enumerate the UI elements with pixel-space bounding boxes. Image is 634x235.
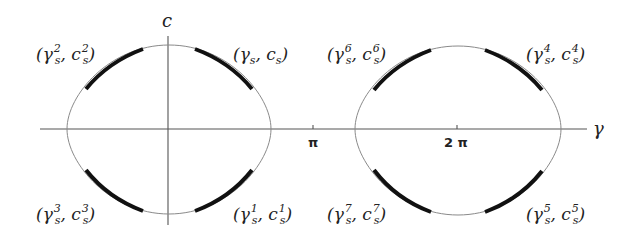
label-gamma5-c5: (γ5s, c5s) — [526, 202, 585, 227]
tick-label-2pi: 2 π — [444, 135, 468, 150]
label-gamma4-c4: (γ4s, c4s) — [526, 42, 585, 67]
phase-diagram: c γ π 2 π (γ2s, c2s) (γs, cs) (γ3s, c3s)… — [0, 0, 634, 235]
right-loop-curve — [355, 46, 561, 215]
tick-label-pi: π — [308, 135, 318, 150]
label-gamma1-c1: (γ1s, c1s) — [233, 202, 292, 227]
c-axis-label: c — [162, 10, 172, 31]
gamma-axis-label: γ — [593, 118, 604, 139]
label-gamma-c: (γs, cs) — [233, 44, 288, 67]
label-gamma3-c3: (γ3s, c3s) — [36, 202, 95, 227]
label-gamma2-c2: (γ2s, c2s) — [36, 42, 95, 67]
label-gamma6-c6: (γ6s, c6s) — [327, 42, 386, 67]
label-gamma7-c7: (γ7s, c7s) — [327, 202, 386, 227]
